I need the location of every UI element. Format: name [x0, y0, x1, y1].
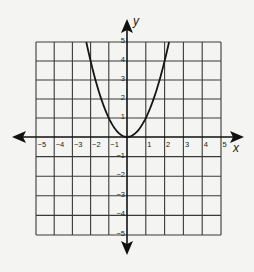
x-tick-label: 5: [223, 140, 227, 149]
x-tick-label: 2: [166, 140, 170, 149]
x-tick-label: −3: [74, 140, 83, 149]
x-tick-label: 3: [185, 140, 189, 149]
grid: [36, 42, 221, 235]
x-tick-label: −2: [92, 140, 101, 149]
y-tick-label: −1: [116, 151, 125, 160]
y-tick-label: −3: [116, 190, 125, 199]
x-tick-label: 1: [147, 140, 151, 149]
x-tick-label: −5: [38, 140, 47, 149]
y-axis-label: y: [132, 14, 140, 28]
y-tick-label: 2: [121, 93, 125, 102]
y-tick-label: 4: [121, 55, 125, 64]
x-tick-label: 4: [204, 140, 208, 149]
y-tick-label: −4: [116, 209, 125, 218]
y-tick-label: 1: [121, 112, 125, 121]
y-tick-label: −2: [116, 170, 125, 179]
x-tick-label: −1: [110, 140, 119, 149]
y-tick-label: 3: [121, 74, 125, 83]
y-tick-label: −5: [116, 229, 125, 238]
y-tick-label: 5: [121, 36, 125, 45]
coordinate-plane: −5−4−3−2−11234554321−1−2−3−4−5 x y: [0, 0, 254, 272]
x-axis-label: x: [232, 141, 240, 155]
x-tick-label: −4: [56, 140, 65, 149]
